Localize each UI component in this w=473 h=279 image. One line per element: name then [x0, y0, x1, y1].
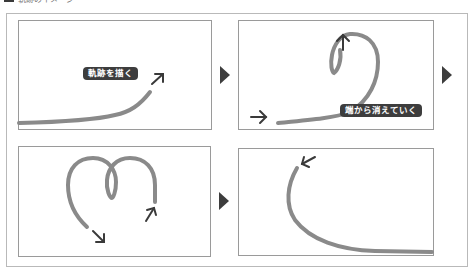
panel-3: [18, 146, 211, 257]
label-fade-from-end: 端から消えていく: [340, 104, 422, 117]
section-heading: 軌跡のイメージ: [4, 0, 74, 4]
step-arrow-icon: [219, 192, 229, 210]
step-arrow-icon: [442, 66, 452, 84]
label-draw-trail: 軌跡を描く: [83, 67, 138, 80]
panel-4: [238, 148, 434, 256]
step-arrow-icon: [220, 66, 230, 84]
heading-marker: [4, 0, 14, 2]
heading-text: 軌跡のイメージ: [18, 0, 74, 4]
